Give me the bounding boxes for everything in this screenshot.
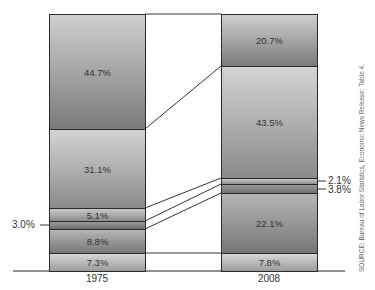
- source-note: SOURCE: Bureau of Labor Statistics, Econ…: [358, 64, 365, 272]
- connector-line: [145, 66, 221, 129]
- bar-segment: 5.1%: [49, 208, 146, 222]
- bar-segment: 20.7%: [221, 14, 318, 67]
- connector-line: [145, 184, 221, 221]
- bar-segment: 7.3%: [49, 253, 146, 272]
- bar-segment: 44.7%: [49, 14, 146, 130]
- bar-segment: 31.1%: [49, 129, 146, 209]
- stacked-bar-chart: 44.7%31.1%5.1%8.8%7.3% 20.7%43.5%22.1%7.…: [0, 0, 375, 290]
- bar-segment: 8.8%: [49, 229, 146, 254]
- callout-3-8: 3.8%: [328, 184, 351, 195]
- bar-segment: 22.1%: [221, 193, 318, 254]
- x-label-1975: 1975: [49, 273, 145, 284]
- callout-3-0: 3.0%: [12, 219, 35, 230]
- connector-line: [145, 193, 221, 229]
- connector-line: [145, 178, 221, 208]
- bar-segment: 43.5%: [221, 66, 318, 179]
- bar-segment: 7.8%: [221, 253, 318, 272]
- x-label-2008: 2008: [221, 273, 317, 284]
